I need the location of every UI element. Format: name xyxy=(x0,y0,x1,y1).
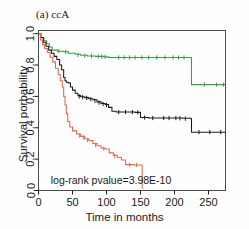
x-tick-label: 100 xyxy=(97,196,115,208)
x-tick-label: 50 xyxy=(66,196,78,208)
x-axis-label: Time in months xyxy=(0,211,249,223)
plot-canvas: 0501001502002500.00.20.40.60.81.0log-ran… xyxy=(0,0,249,229)
survival-curve-red-group xyxy=(39,34,143,189)
x-tick-label: 200 xyxy=(165,196,183,208)
y-tick-label: 0.0 xyxy=(25,183,37,198)
survival-curve-green-group xyxy=(39,34,226,85)
x-tick-label: 150 xyxy=(131,196,149,208)
y-axis-label: Survival porbability xyxy=(17,44,29,184)
logrank-annotation: log-rank pvalue=3.98E-10 xyxy=(51,174,172,186)
panel-title: (a) ccA xyxy=(36,8,69,20)
y-tick-label: 1.0 xyxy=(25,26,37,41)
survival-curve-black-group xyxy=(39,34,226,133)
x-tick-label: 250 xyxy=(199,196,217,208)
survival-plot-figure: (a) ccA Survival porbability Time in mon… xyxy=(0,0,249,229)
